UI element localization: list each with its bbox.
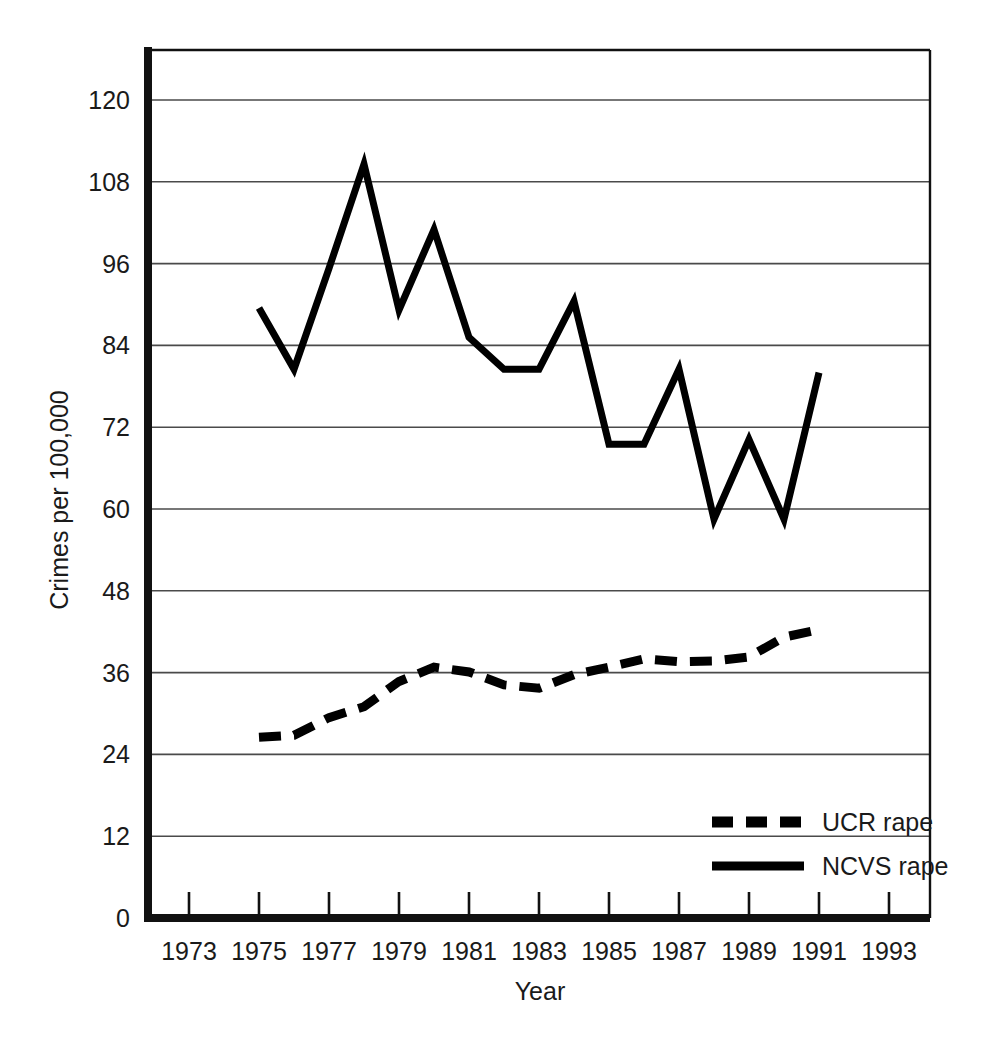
x-tick-label: 1975 [231,937,287,965]
x-tick-label: 1979 [371,937,427,965]
y-tick-label: 0 [116,904,130,932]
y-tick-label: 48 [102,577,130,605]
y-tick-label: 24 [102,740,130,768]
y-axis-title: Crimes per 100,000 [45,390,73,610]
x-tick-label: 1981 [441,937,497,965]
x-tick-label: 1985 [581,937,637,965]
y-tick-label: 72 [102,413,130,441]
x-tick-label: 1983 [511,937,567,965]
y-tick-label: 96 [102,250,130,278]
x-tick-label: 1993 [861,937,917,965]
y-tick-label: 84 [102,331,130,359]
y-tick-label: 120 [88,86,130,114]
x-tick-label: 1977 [301,937,357,965]
y-tick-label: 60 [102,495,130,523]
y-tick-label: 12 [102,822,130,850]
x-tick-label: 1989 [721,937,777,965]
y-tick-label: 108 [88,168,130,196]
x-axis-title: Year [515,977,566,1005]
legend-label: NCVS rape [822,852,948,880]
x-tick-label-group: 1973197519771979198119831985198719891991… [161,937,917,965]
x-tick-label: 1973 [161,937,217,965]
x-tick-label: 1987 [651,937,707,965]
legend-label: UCR rape [822,808,933,836]
line-chart: 01224364860728496108120 1973197519771979… [0,0,982,1048]
y-tick-label: 36 [102,659,130,687]
x-tick-label: 1991 [791,937,847,965]
chart-figure: 01224364860728496108120 1973197519771979… [0,0,982,1048]
